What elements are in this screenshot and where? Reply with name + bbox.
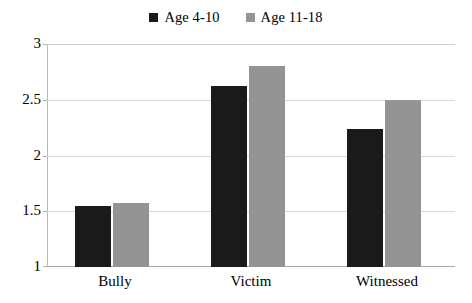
y-tick-label-2: 2 <box>1 148 41 163</box>
legend-label-age-4-10: Age 4-10 <box>164 9 219 25</box>
y-tick-label-1.5: 1.5 <box>1 203 41 218</box>
x-tick-label-bully: Bully <box>47 272 183 290</box>
y-tick-label-2.5: 2.5 <box>1 92 41 107</box>
y-tick-2.5 <box>43 100 47 101</box>
bar-victim-age-4-10[interactable] <box>211 86 247 267</box>
y-axis: 3 2.5 2 1.5 1 <box>0 44 41 267</box>
y-tick-3 <box>43 44 47 45</box>
bar-bully-age-11-18[interactable] <box>113 203 149 267</box>
y-tick-label-3: 3 <box>1 36 41 51</box>
gridline-3 <box>47 44 455 45</box>
legend-label-age-11-18: Age 11-18 <box>261 9 323 25</box>
bar-chart: Age 4-10 Age 11-18 3 2.5 2 1.5 1 Bully V… <box>0 0 472 303</box>
dark-square-swatch <box>149 13 158 22</box>
legend-item-age-4-10[interactable]: Age 4-10 <box>149 9 219 25</box>
x-tick-label-victim: Victim <box>183 272 319 290</box>
plot-area <box>47 44 455 267</box>
y-tick-1 <box>43 266 47 267</box>
bar-witnessed-age-4-10[interactable] <box>347 129 383 267</box>
y-tick-1.5 <box>43 211 47 212</box>
y-tick-2 <box>43 156 47 157</box>
x-axis: Bully Victim Witnessed <box>47 272 455 296</box>
legend-item-age-11-18[interactable]: Age 11-18 <box>246 9 323 25</box>
y-tick-label-1: 1 <box>1 259 41 274</box>
x-tick-label-witnessed: Witnessed <box>319 272 455 290</box>
bar-victim-age-11-18[interactable] <box>249 66 285 267</box>
bar-witnessed-age-11-18[interactable] <box>385 100 421 267</box>
bar-bully-age-4-10[interactable] <box>75 206 111 267</box>
chart-legend: Age 4-10 Age 11-18 <box>0 6 472 28</box>
gray-square-swatch <box>246 13 255 22</box>
